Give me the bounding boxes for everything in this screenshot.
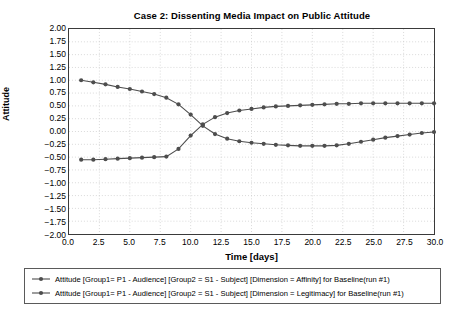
- data-point: [91, 80, 95, 84]
- x-axis-label: Time [days]: [68, 251, 435, 262]
- y-tick-label: −1.50: [30, 205, 66, 214]
- y-tick-label: −2.00: [30, 231, 66, 240]
- data-point: [408, 101, 412, 105]
- data-point: [176, 102, 180, 106]
- data-point: [79, 158, 83, 162]
- x-tick-label: 25.0: [366, 238, 383, 247]
- data-point: [116, 85, 120, 89]
- data-point: [189, 134, 193, 138]
- data-point: [335, 143, 339, 147]
- legend-marker-icon: [31, 288, 51, 298]
- y-tick-label: −1.00: [30, 179, 66, 188]
- data-series-layer: [69, 29, 434, 234]
- data-point: [395, 134, 399, 138]
- y-tick-label: −0.25: [30, 140, 66, 149]
- data-point: [79, 78, 83, 82]
- legend-item[interactable]: Attitude [Group1= P1 - Audience] [Group2…: [31, 286, 434, 300]
- y-tick-label: −0.75: [30, 166, 66, 175]
- data-point: [383, 101, 387, 105]
- data-point: [201, 122, 205, 126]
- y-tick-label: 0.25: [30, 114, 66, 123]
- data-point: [189, 113, 193, 117]
- legend-item[interactable]: Attitude [Group1= P1 - Audience] [Group2…: [31, 272, 434, 286]
- data-point: [432, 130, 436, 134]
- data-point: [249, 107, 253, 111]
- data-point: [359, 140, 363, 144]
- data-point: [310, 144, 314, 148]
- data-point: [371, 138, 375, 142]
- x-tick-label: 30.0: [427, 238, 444, 247]
- y-tick-label: 0.50: [30, 101, 66, 110]
- y-tick-label: 1.75: [30, 37, 66, 46]
- data-point: [262, 142, 266, 146]
- data-point: [274, 104, 278, 108]
- data-point: [408, 133, 412, 137]
- data-series: [79, 101, 436, 162]
- data-point: [164, 155, 168, 159]
- data-point: [262, 105, 266, 109]
- y-tick-label: −0.50: [30, 153, 66, 162]
- data-point: [164, 96, 168, 100]
- legend-label: Attitude [Group1= P1 - Audience] [Group2…: [55, 275, 390, 284]
- y-tick-label: 2.00: [30, 24, 66, 33]
- data-point: [249, 141, 253, 145]
- x-tick-label: 7.5: [154, 238, 166, 247]
- legend-marker-icon: [31, 274, 51, 284]
- data-point: [140, 156, 144, 160]
- y-tick-label: 1.00: [30, 76, 66, 85]
- plot-area: [68, 28, 435, 235]
- data-point: [213, 132, 217, 136]
- data-point: [128, 87, 132, 91]
- data-point: [310, 103, 314, 107]
- y-tick-label: −1.75: [30, 218, 66, 227]
- data-point: [359, 101, 363, 105]
- data-point: [128, 156, 132, 160]
- data-point: [91, 158, 95, 162]
- data-point: [298, 103, 302, 107]
- data-point: [116, 157, 120, 161]
- data-point: [103, 82, 107, 86]
- data-point: [298, 144, 302, 148]
- data-point: [383, 136, 387, 140]
- x-tick-label: 2.5: [93, 238, 105, 247]
- data-point: [322, 144, 326, 148]
- x-tick-label: 0.0: [62, 238, 74, 247]
- x-tick-label: 17.5: [274, 238, 291, 247]
- chart-figure: Case 2: Dissenting Media Impact on Publi…: [0, 0, 465, 317]
- data-point: [140, 89, 144, 93]
- data-point: [152, 92, 156, 96]
- x-tick-label: 22.5: [335, 238, 352, 247]
- data-point: [274, 143, 278, 147]
- y-axis-ticks: 2.001.751.501.251.000.750.500.250.00−0.2…: [26, 28, 66, 235]
- y-tick-label: 1.50: [30, 50, 66, 59]
- x-tick-label: 20.0: [304, 238, 321, 247]
- data-point: [432, 101, 436, 105]
- y-tick-label: 0.75: [30, 88, 66, 97]
- data-point: [237, 108, 241, 112]
- data-point: [237, 139, 241, 143]
- data-point: [420, 101, 424, 105]
- legend: Attitude [Group1= P1 - Audience] [Group2…: [24, 268, 441, 304]
- data-point: [225, 137, 229, 141]
- data-point: [213, 115, 217, 119]
- data-point: [286, 143, 290, 147]
- x-tick-label: 10.0: [182, 238, 199, 247]
- x-tick-label: 12.5: [213, 238, 230, 247]
- data-point: [152, 155, 156, 159]
- data-point: [286, 104, 290, 108]
- y-tick-label: 0.00: [30, 127, 66, 136]
- data-point: [395, 101, 399, 105]
- data-point: [420, 131, 424, 135]
- data-point: [347, 102, 351, 106]
- y-axis-label: Attitude: [1, 87, 11, 121]
- data-point: [347, 142, 351, 146]
- y-tick-label: 1.25: [30, 63, 66, 72]
- chart-title: Case 2: Dissenting Media Impact on Publi…: [68, 10, 436, 21]
- data-point: [371, 101, 375, 105]
- x-axis-ticks: 0.02.55.07.510.012.515.017.520.022.525.0…: [68, 238, 435, 250]
- data-point: [225, 111, 229, 115]
- data-series: [79, 78, 436, 148]
- x-tick-label: 5.0: [123, 238, 135, 247]
- data-point: [103, 157, 107, 161]
- data-point: [335, 102, 339, 106]
